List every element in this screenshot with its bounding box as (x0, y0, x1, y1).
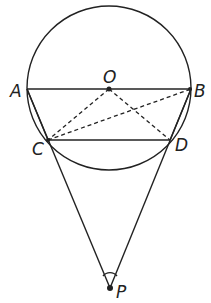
point-b-dot (188, 87, 192, 91)
point-o-dot (107, 87, 112, 92)
label-p: P (116, 282, 127, 302)
geometry-diagram: A B O C D P (0, 0, 211, 303)
label-b: B (194, 81, 206, 101)
point-p-dot (107, 285, 113, 291)
label-a: A (9, 81, 22, 101)
line-ap (27, 89, 110, 288)
dashed-od (109, 89, 170, 140)
label-d: D (175, 135, 188, 155)
label-c: C (32, 139, 44, 159)
point-c-dot (46, 138, 50, 142)
dashed-oc (48, 89, 109, 140)
label-o: O (103, 67, 116, 87)
line-bp (110, 89, 191, 288)
dashed-cb (48, 89, 191, 140)
